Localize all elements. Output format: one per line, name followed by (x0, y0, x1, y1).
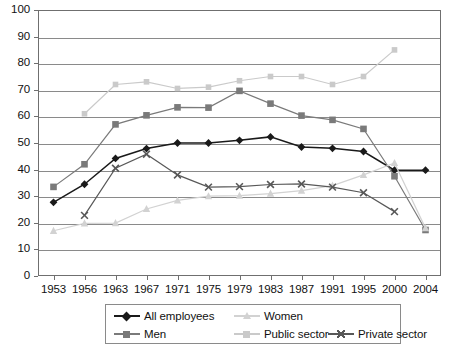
chart-container: 0102030405060708090100 19531956196319671… (0, 0, 452, 359)
data-point (50, 198, 58, 206)
x-tick-mark (116, 276, 117, 280)
data-point (391, 159, 398, 166)
data-point (112, 165, 119, 172)
data-point (81, 161, 88, 168)
data-point (391, 173, 398, 180)
series-public-sector (82, 47, 398, 116)
x-tick-mark (271, 276, 272, 280)
data-point (329, 144, 337, 152)
data-point (267, 133, 275, 141)
legend-item-private-sector[interactable]: Private sector (328, 328, 427, 340)
data-point (206, 84, 212, 90)
series-line (85, 154, 395, 215)
data-point (391, 208, 398, 215)
data-point (392, 47, 398, 53)
data-point (113, 82, 119, 88)
data-point (174, 139, 182, 147)
data-point (82, 111, 88, 117)
legend-item-men[interactable]: Men (114, 328, 166, 340)
legend-label: Private sector (358, 328, 427, 340)
x-tick-mark (209, 276, 210, 280)
data-point (360, 126, 367, 133)
x-tick-mark (240, 276, 241, 280)
x-tick-mark (147, 276, 148, 280)
x-tick-mark (178, 276, 179, 280)
x-tick-label: 2004 (406, 284, 446, 296)
data-point (237, 78, 243, 84)
legend-label: Women (264, 310, 303, 322)
legend-marker-square-small-icon (234, 328, 260, 340)
chart-legend: All employeesWomenMenPublic sectorPrivat… (105, 304, 401, 344)
legend-label: All employees (144, 310, 214, 322)
legend-item-all-employees[interactable]: All employees (114, 310, 214, 322)
data-point (143, 112, 150, 119)
data-point (81, 212, 88, 219)
data-point (174, 172, 181, 179)
legend-label: Public sector (264, 328, 329, 340)
series-men (50, 88, 429, 234)
data-point (236, 88, 243, 95)
data-point (268, 74, 274, 80)
data-point (236, 136, 244, 144)
x-tick-mark (85, 276, 86, 280)
legend-marker-triangle-icon (234, 310, 260, 322)
legend-item-women[interactable]: Women (234, 310, 303, 322)
legend-marker-diamond-icon (114, 310, 140, 322)
data-point (422, 166, 430, 174)
data-point (205, 104, 212, 111)
series-women (50, 159, 429, 234)
x-tick-mark (364, 276, 365, 280)
legend-label: Men (144, 328, 166, 340)
data-point (329, 117, 336, 124)
x-tick-mark (395, 276, 396, 280)
data-point (298, 143, 306, 151)
x-tick-mark (302, 276, 303, 280)
legend-marker-x-icon (328, 328, 354, 340)
data-point (112, 121, 119, 128)
x-tick-mark (54, 276, 55, 280)
data-point (298, 112, 305, 119)
legend-marker-square-icon (114, 328, 140, 340)
data-point (174, 104, 181, 111)
data-point (175, 86, 181, 92)
data-point (205, 139, 213, 147)
data-point (50, 184, 57, 191)
data-point (267, 100, 274, 107)
series-private-sector (81, 151, 398, 219)
legend-item-public-sector[interactable]: Public sector (234, 328, 329, 340)
data-point (299, 74, 305, 80)
x-tick-mark (333, 276, 334, 280)
data-point (144, 79, 150, 85)
data-point (361, 74, 367, 80)
data-point (360, 148, 368, 156)
series-line (54, 91, 426, 230)
x-tick-mark (426, 276, 427, 280)
data-point (330, 82, 336, 88)
